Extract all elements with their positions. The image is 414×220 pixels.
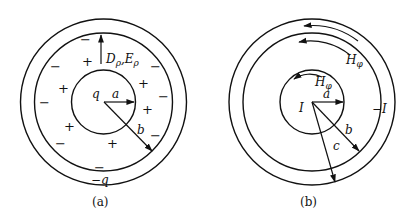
radius-b-label: b xyxy=(345,123,353,137)
caption-b: (b) xyxy=(300,195,317,209)
figure-b: Hφ Hφ I −I a b c (b) xyxy=(229,19,395,209)
radius-c-label: c xyxy=(333,139,340,153)
h-field-outer-label: Hφ xyxy=(345,53,363,69)
plus-sign: + xyxy=(82,54,93,69)
minus-sign: − xyxy=(50,59,61,74)
outer-charge-label: −q xyxy=(91,173,109,187)
minus-sign: − xyxy=(158,89,169,104)
minus-sign: − xyxy=(150,59,161,74)
outer-current-label: −I xyxy=(372,102,387,116)
minus-sign: − xyxy=(80,32,91,47)
plus-sign: + xyxy=(138,76,149,91)
radius-a-label: a xyxy=(323,87,330,101)
coaxial-diagrams: Dρ,Eρ a q b + + + + + + − − − − − − − − … xyxy=(0,0,414,220)
h-field-middle-arrow-icon xyxy=(299,41,350,55)
center-charge-label: q xyxy=(92,87,100,101)
plus-sign: + xyxy=(142,102,153,117)
plus-sign: + xyxy=(64,119,75,134)
caption-a: (a) xyxy=(92,195,109,209)
radius-a-label: a xyxy=(112,87,119,101)
plus-sign: + xyxy=(58,81,69,96)
plus-sign: + xyxy=(107,136,118,151)
minus-sign: − xyxy=(55,136,66,151)
minus-sign: − xyxy=(39,95,50,110)
figure-a: Dρ,Eρ a q b + + + + + + − − − − − − − − … xyxy=(21,19,187,209)
radius-b-label: b xyxy=(137,123,145,137)
field-label-de: Dρ,Eρ xyxy=(105,52,140,68)
minus-sign: − xyxy=(150,128,161,143)
inner-current-label: I xyxy=(298,101,304,115)
